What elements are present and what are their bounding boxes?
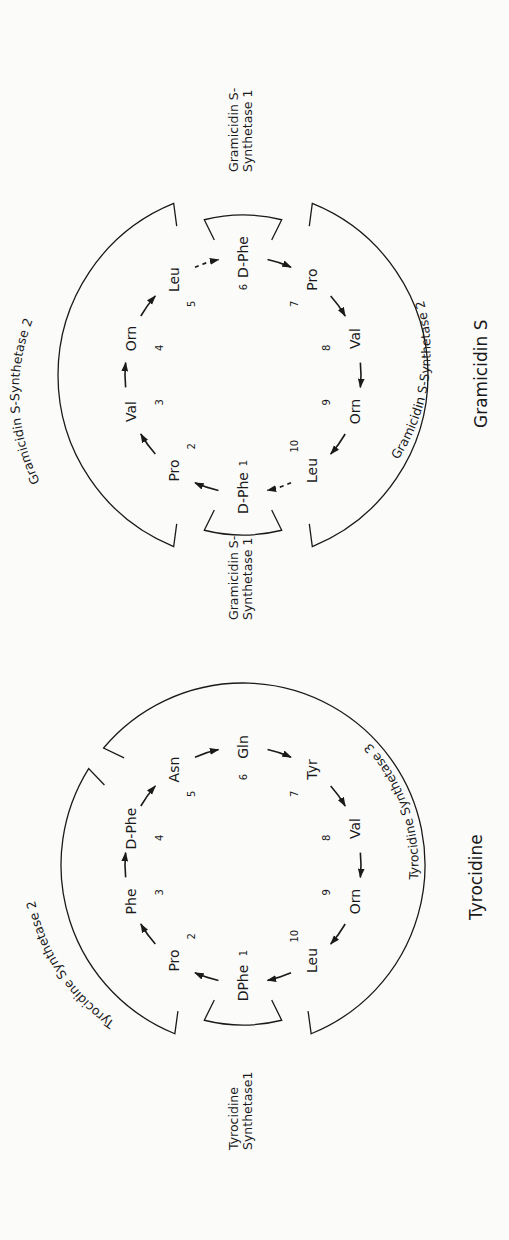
gramicidin-synthetase2-left-text: Gramicidin S-Synthetase 2	[7, 316, 43, 487]
position-number-6: 6	[238, 774, 249, 780]
enzyme-bracket-1	[204, 1000, 281, 1025]
position-number-3: 3	[154, 889, 165, 895]
gramicidin-synthetase2-right-text: Gramicidin S-Synthetase 2	[388, 299, 434, 461]
position-number-7: 7	[289, 301, 300, 307]
residue-dphe-4: D-Phe	[123, 808, 139, 850]
position-number-6: 6	[238, 284, 249, 290]
arrow-2-to-3	[141, 924, 155, 944]
arrow-3-to-4	[125, 363, 126, 388]
residue-leu-10: Leu	[304, 458, 320, 483]
position-number-9: 9	[321, 889, 332, 895]
residue-dphe-1: DPhe	[235, 965, 251, 1002]
arrow-9-to-10	[331, 434, 345, 454]
arrow-4-to-5	[141, 296, 155, 316]
tyrocidine-arrows	[125, 750, 361, 981]
residue-orn-4: Orn	[123, 326, 139, 351]
gramicidin-arrows	[125, 260, 361, 491]
arrow-5-to-6	[195, 750, 218, 758]
gramicidin-synthetase2-left-label: Gramicidin S-Synthetase 2	[7, 316, 43, 487]
arrow-7-to-8	[331, 296, 345, 316]
position-number-10: 10	[289, 440, 300, 453]
tyrocidine-synthetase3-label: Tyrocidine Synthetase 3	[361, 741, 422, 882]
arrow-9-to-10	[331, 924, 345, 944]
arrow-4-to-5	[141, 786, 155, 806]
arrow-10-to-1	[268, 483, 291, 491]
position-number-9: 9	[321, 399, 332, 405]
residue-pro-7: Pro	[304, 268, 320, 290]
position-number-5: 5	[186, 301, 197, 307]
tyrocidine-panel: DPheProPheD-PheAsnGlnTyrValOrnLeu 123456…	[23, 683, 486, 1151]
tyrocidine-positions: 12345678910	[154, 774, 332, 956]
residue-phe-3: Phe	[123, 888, 139, 914]
arrow-6-to-7	[268, 750, 291, 758]
position-number-10: 10	[289, 930, 300, 943]
residue-val-8: Val	[347, 818, 363, 839]
arrow-8-to-9	[360, 853, 361, 878]
residue-orn-9: Orn	[347, 399, 363, 424]
gramicidin-residues: D-PheProValOrnLeuD-PheProValOrnLeu	[123, 236, 363, 514]
tyrocidine-synthetase3-text: Tyrocidine Synthetase 3	[361, 741, 422, 882]
residue-val-3: Val	[123, 401, 139, 422]
residue-gln-6: Gln	[235, 735, 251, 759]
residue-val-8: Val	[347, 328, 363, 349]
enzyme-bracket-3	[104, 683, 425, 1034]
enzyme-bracket-3	[58, 203, 177, 546]
gramicidin-panel: D-PheProValOrnLeuD-PheProValOrnLeu 12345…	[7, 84, 491, 620]
residue-leu-10: Leu	[304, 948, 320, 973]
position-number-8: 8	[321, 345, 332, 351]
position-number-1: 1	[238, 950, 249, 956]
arrow-1-to-2	[195, 483, 218, 491]
position-number-3: 3	[154, 399, 165, 405]
residue-leu-5: Leu	[166, 267, 182, 292]
arrow-1-to-2	[195, 973, 218, 981]
position-number-2: 2	[186, 933, 197, 939]
enzyme-bracket-4	[309, 203, 428, 546]
arrow-6-to-7	[268, 260, 291, 268]
position-number-1: 1	[238, 460, 249, 466]
position-number-2: 2	[186, 443, 197, 449]
tyrocidine-synthetase1-label: Tyrocidine Synthetase1	[226, 1072, 255, 1152]
residue-asn-5: Asn	[166, 757, 182, 783]
arrow-7-to-8	[331, 786, 345, 806]
residue-dphe-1: D-Phe	[235, 472, 251, 514]
tyrocidine-synthetase2-text: Tyrocidine Synthetase 2	[23, 899, 117, 1032]
arrow-2-to-3	[141, 434, 155, 454]
position-number-5: 5	[186, 791, 197, 797]
residue-pro-2: Pro	[166, 459, 182, 481]
position-number-7: 7	[289, 791, 300, 797]
tyrocidine-title: Tyrocidine	[466, 834, 486, 921]
gramicidin-title: Gramicidin S	[471, 320, 491, 428]
gramicidin-positions: 12345678910	[154, 284, 332, 466]
residue-pro-2: Pro	[166, 949, 182, 971]
gramicidin-synthetase1-bottom-label: Gramicidin S- Synthetase 1	[226, 532, 255, 620]
residue-orn-9: Orn	[347, 889, 363, 914]
arrow-10-to-1	[268, 973, 291, 981]
position-number-4: 4	[154, 345, 165, 351]
residue-dphe-6: D-Phe	[235, 236, 251, 278]
gramicidin-synthetase1-top-label: Gramicidin S- Synthetase 1	[226, 84, 255, 172]
position-number-8: 8	[321, 835, 332, 841]
arrow-3-to-4	[125, 853, 126, 878]
tyrocidine-synthetase2-label: Tyrocidine Synthetase 2	[23, 899, 117, 1032]
nrps-diagram: D-PheProValOrnLeuD-PheProValOrnLeu 12345…	[0, 0, 509, 1240]
residue-tyr-7: Tyr	[304, 759, 320, 781]
arrow-5-to-6	[195, 260, 218, 268]
gramicidin-synthetase2-right-label: Gramicidin S-Synthetase 2	[388, 299, 434, 461]
position-number-4: 4	[154, 835, 165, 841]
arrow-8-to-9	[360, 363, 361, 388]
